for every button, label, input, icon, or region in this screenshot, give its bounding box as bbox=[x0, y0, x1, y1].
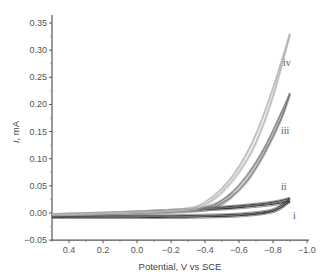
x-tick-label: 0.0 bbox=[131, 245, 144, 255]
curve-label-iii: iii bbox=[281, 125, 290, 136]
x-tick-label: −0.8 bbox=[264, 245, 282, 255]
y-tick-label: 0.00 bbox=[29, 208, 47, 218]
y-tick-label: −0.05 bbox=[24, 235, 47, 245]
y-tick-label: 0.30 bbox=[29, 45, 47, 55]
x-tick-label: −0.6 bbox=[230, 245, 248, 255]
y-tick-label: 0.15 bbox=[29, 127, 47, 137]
cyclic-voltammogram-chart: −0.050.000.050.100.150.200.250.300.350.4… bbox=[0, 0, 326, 278]
x-tick-label: −0.2 bbox=[162, 245, 180, 255]
y-tick-label: 0.20 bbox=[29, 99, 47, 109]
x-tick-label: −0.4 bbox=[196, 245, 214, 255]
curve-iii bbox=[52, 93, 291, 216]
curve-label-i: i bbox=[293, 210, 296, 221]
x-axis-label: Potential, V vs SCE bbox=[139, 261, 222, 272]
curve-label-ii: ii bbox=[281, 181, 287, 192]
x-tick-label: −1.0 bbox=[298, 245, 316, 255]
y-tick-label: 0.10 bbox=[29, 154, 47, 164]
plot-curves bbox=[52, 33, 291, 219]
curve-label-iv: iv bbox=[283, 57, 291, 68]
y-tick-label: 0.35 bbox=[29, 18, 47, 28]
y-tick-label: 0.05 bbox=[29, 181, 47, 191]
x-tick-label: 0.4 bbox=[63, 245, 76, 255]
x-tick-label: 0.2 bbox=[97, 245, 110, 255]
y-tick-label: 0.25 bbox=[29, 72, 47, 82]
y-axis-label: I, mA bbox=[10, 120, 21, 143]
curve-iv bbox=[52, 33, 291, 216]
